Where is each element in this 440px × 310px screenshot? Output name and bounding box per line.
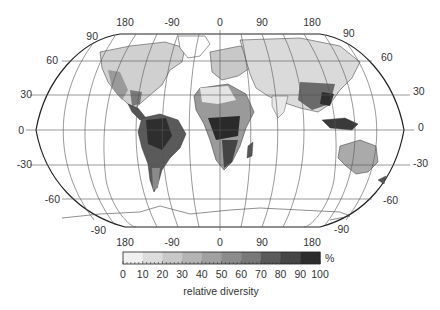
left-lat-label: -30 <box>17 158 32 170</box>
colorbar-swatch <box>123 252 143 264</box>
colorbar-tick-label: 50 <box>216 268 228 280</box>
right-lat-label: -60 <box>383 194 398 206</box>
right-lat-label: 0 <box>418 121 424 133</box>
top-lon-label: 90 <box>256 16 268 28</box>
colorbar-swatch <box>202 252 222 264</box>
colorbar-tick-label: 90 <box>294 268 306 280</box>
colorbar-tick-label: 40 <box>196 268 208 280</box>
left-lat-label: 90 <box>86 30 98 42</box>
bottom-lon-label: 180 <box>303 236 321 248</box>
left-lat-label: 0 <box>18 124 24 136</box>
bottom-lon-label: -90 <box>164 236 179 248</box>
left-lat-label: 60 <box>46 54 58 66</box>
colorbar-unit: % <box>325 252 334 264</box>
left-lat-label: -90 <box>91 224 106 236</box>
colorbar-swatch <box>182 252 202 264</box>
top-lon-label: 180 <box>116 16 134 28</box>
world-diversity-map: 180 -90 0 90 180 180 -90 0 90 180 90 60 … <box>0 0 440 310</box>
colorbar-swatch <box>162 252 182 264</box>
colorbar-tick-label: 10 <box>137 268 149 280</box>
colorbar: 0102030405060708090100 % relative divers… <box>120 252 334 297</box>
right-lat-label: -30 <box>413 157 428 169</box>
colorbar-tick-label: 100 <box>311 268 329 280</box>
right-lat-label: -90 <box>334 223 349 235</box>
left-lat-label: 30 <box>20 88 32 100</box>
colorbar-swatch <box>261 252 281 264</box>
colorbar-swatch <box>222 252 242 264</box>
colorbar-swatch <box>300 252 320 264</box>
colorbar-tick-labels: 0102030405060708090100 <box>120 268 329 280</box>
bottom-lon-label: 180 <box>116 236 134 248</box>
colorbar-tick-label: 0 <box>120 268 126 280</box>
colorbar-swatch <box>241 252 261 264</box>
left-lat-label: -60 <box>45 193 60 205</box>
colorbar-tick-label: 60 <box>235 268 247 280</box>
top-lon-label: 0 <box>217 16 223 28</box>
right-lat-label: 90 <box>343 27 355 39</box>
bottom-lon-label: 0 <box>217 236 223 248</box>
colorbar-tick-label: 30 <box>176 268 188 280</box>
colorbar-tick-label: 80 <box>275 268 287 280</box>
top-lon-label: 180 <box>303 16 321 28</box>
bottom-lon-label: 90 <box>256 236 268 248</box>
top-lon-label: -90 <box>164 16 179 28</box>
bottom-longitude-labels: 180 -90 0 90 180 <box>116 236 321 248</box>
colorbar-title: relative diversity <box>183 285 259 297</box>
colorbar-swatch <box>143 252 163 264</box>
colorbar-tick-label: 20 <box>157 268 169 280</box>
right-lat-label: 30 <box>413 85 425 97</box>
top-longitude-labels: 180 -90 0 90 180 <box>116 16 321 28</box>
right-lat-label: 60 <box>381 51 393 63</box>
colorbar-tick-label: 70 <box>255 268 267 280</box>
colorbar-swatch <box>281 252 301 264</box>
